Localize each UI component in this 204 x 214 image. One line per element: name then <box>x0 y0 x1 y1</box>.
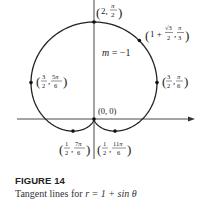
svg-text:π: π <box>178 24 182 31</box>
svg-text:3: 3 <box>178 34 181 41</box>
svg-text:(: ( <box>96 5 100 20</box>
svg-text:): ) <box>118 5 122 20</box>
svg-text:): ) <box>86 142 90 157</box>
svg-text:3: 3 <box>42 73 45 80</box>
svg-text:2: 2 <box>111 11 115 19</box>
svg-text:7π: 7π <box>75 140 82 147</box>
svg-text:6: 6 <box>177 82 181 89</box>
svg-text:√3: √3 <box>165 24 172 31</box>
svg-text:1: 1 <box>65 140 68 147</box>
svg-text:6: 6 <box>77 149 81 156</box>
point-2-pi-over-2 <box>92 20 96 24</box>
svg-text:1 +: 1 + <box>150 29 162 39</box>
svg-text:11π: 11π <box>113 140 123 147</box>
label-1-over-2-11pi-over-6: ( 1 2 , 11π 6 ) <box>97 140 131 157</box>
caption-equation: r = 1 + sin θ <box>85 188 136 199</box>
point-3-over-2-pi-over-6 <box>155 81 159 85</box>
svg-text:(: ( <box>36 74 40 89</box>
svg-text:): ) <box>184 74 188 89</box>
svg-text:1: 1 <box>103 140 106 147</box>
svg-text:,: , <box>71 144 73 154</box>
svg-text:,: , <box>48 76 50 86</box>
figure-description: Tangent lines for r = 1 + sin θ <box>15 188 137 199</box>
label-3-over-2-5pi-over-6: ( 3 2 , 5π 6 ) <box>36 73 67 89</box>
svg-text:,: , <box>109 144 111 154</box>
label-origin: (0, 0) <box>98 106 117 116</box>
svg-text:2,: 2, <box>101 6 108 16</box>
svg-text:): ) <box>185 28 189 43</box>
svg-text:(: ( <box>162 74 166 89</box>
figure-title: FIGURE 14 <box>15 175 137 186</box>
slope-annotation: m = −1 <box>102 47 131 58</box>
svg-text:2: 2 <box>167 34 170 41</box>
cardioid-diagram: ( 2, π 2 ) ( 1 + √3 2 , π 3 ) m = −1 ( 3… <box>0 0 204 172</box>
point-1-over-2-7pi-over-6 <box>71 129 75 133</box>
svg-text:): ) <box>63 74 67 89</box>
svg-text:π: π <box>177 73 181 80</box>
svg-text:2: 2 <box>42 82 45 89</box>
label-1-plus-sqrt3-over-2-pi-over-3: ( 1 + √3 2 , π 3 ) <box>145 24 189 43</box>
svg-text:,: , <box>174 29 176 39</box>
label-2-pi-over-2: ( 2, π 2 ) <box>96 2 122 20</box>
svg-text:(: ( <box>145 28 149 43</box>
svg-text:π: π <box>111 2 115 10</box>
caption-prefix: Tangent lines for <box>15 188 85 199</box>
svg-text:2: 2 <box>103 149 106 156</box>
svg-text:,: , <box>173 76 175 86</box>
svg-text:5π: 5π <box>52 73 59 80</box>
point-1-plus-sqrt3-over-2-pi-over-3 <box>138 39 142 43</box>
svg-text:2: 2 <box>65 149 68 156</box>
svg-text:2: 2 <box>167 82 170 89</box>
label-3-over-2-pi-over-6: ( 3 2 , π 6 ) <box>162 73 188 89</box>
figure-caption: FIGURE 14 Tangent lines for r = 1 + sin … <box>15 175 137 199</box>
svg-text:6: 6 <box>117 149 121 156</box>
point-3-over-2-5pi-over-6 <box>29 81 33 85</box>
svg-text:(: ( <box>59 142 63 157</box>
point-1-over-2-11pi-over-6 <box>113 129 117 133</box>
label-1-over-2-7pi-over-6: ( 1 2 , 7π 6 ) <box>59 140 90 157</box>
svg-text:): ) <box>127 142 131 157</box>
svg-text:3: 3 <box>167 73 170 80</box>
point-origin <box>92 117 96 121</box>
axis-arrow-icon <box>188 117 195 122</box>
svg-text:6: 6 <box>54 82 58 89</box>
svg-text:(: ( <box>97 142 101 157</box>
